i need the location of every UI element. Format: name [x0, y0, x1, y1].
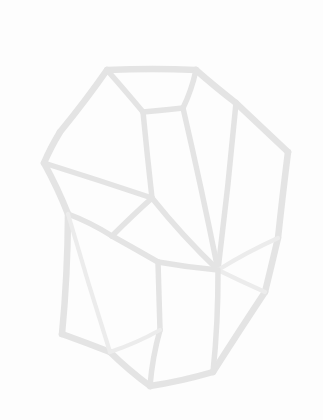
crystal-wireframe-figure	[0, 0, 323, 420]
wireframe-edge	[107, 69, 196, 70]
wireframe-edge	[158, 262, 160, 330]
drawing-canvas	[0, 0, 323, 420]
